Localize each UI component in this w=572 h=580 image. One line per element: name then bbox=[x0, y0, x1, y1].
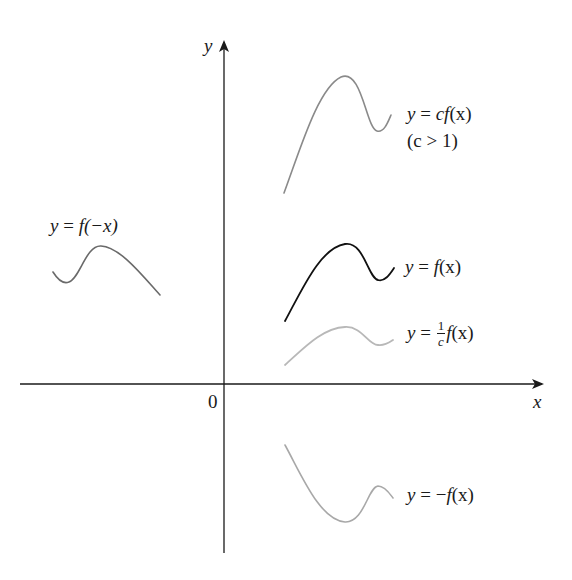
label-f-eq: = bbox=[413, 256, 433, 277]
label-f-x: y = f(x) bbox=[405, 257, 461, 276]
label-negf-eq: = − bbox=[415, 484, 446, 505]
fraction-one-over-c: 1c bbox=[437, 319, 446, 348]
label-inv-c-f-x: y = 1cf(x) bbox=[407, 320, 474, 349]
label-f-arg: (x) bbox=[439, 256, 461, 277]
label-fnegx-eq: = bbox=[58, 215, 78, 236]
curve-f-x bbox=[285, 244, 394, 321]
fraction-denominator: c bbox=[437, 334, 446, 348]
label-invc-eq: = bbox=[415, 322, 435, 343]
label-cf-x: y = cf(x) bbox=[407, 104, 472, 123]
curve-f-neg-x bbox=[53, 246, 160, 295]
label-invc-arg: (x) bbox=[451, 322, 473, 343]
label-fnegx-arg: (−x) bbox=[84, 215, 118, 236]
label-cf-arg: (x) bbox=[449, 103, 471, 124]
curve-neg-f-x bbox=[285, 445, 393, 522]
x-axis-label: x bbox=[533, 392, 541, 411]
label-negf-arg: (x) bbox=[452, 484, 474, 505]
curve-inv-c-f-x bbox=[285, 327, 393, 365]
transformation-diagram bbox=[0, 0, 572, 580]
label-cf-c: c bbox=[436, 103, 444, 124]
y-axis-label: y bbox=[204, 36, 212, 55]
curve-cf-x bbox=[284, 76, 391, 193]
label-f-neg-x: y = f(−x) bbox=[50, 216, 118, 235]
label-cf-note: (c > 1) bbox=[407, 131, 458, 150]
fraction-numerator: 1 bbox=[437, 319, 446, 334]
label-neg-f-x: y = −f(x) bbox=[407, 485, 474, 504]
label-cf-eq: = bbox=[415, 103, 435, 124]
origin-label: 0 bbox=[208, 392, 218, 411]
